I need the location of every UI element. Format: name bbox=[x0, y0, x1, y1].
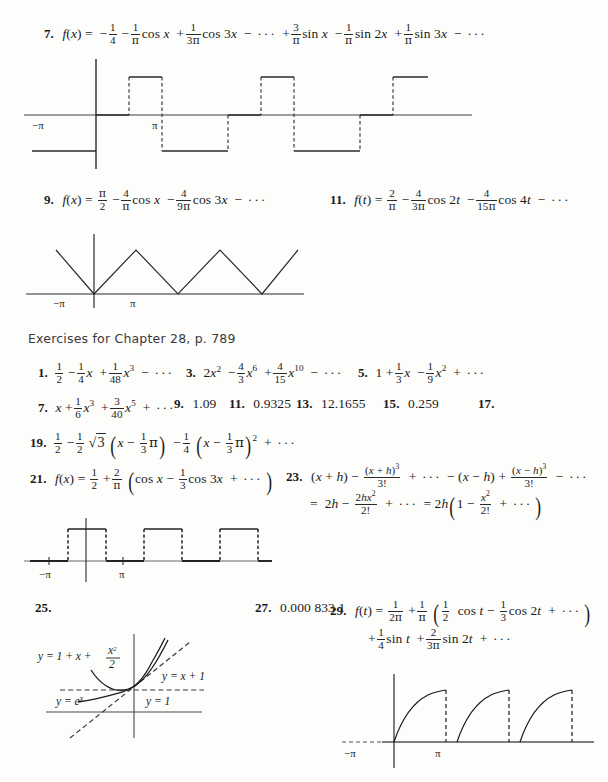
answer-number-27: 27. bbox=[255, 600, 272, 615]
answer-23-identity-line2: = 2h − 2hx22! + ··· = 2h(1 − x22! + ···) bbox=[310, 492, 543, 517]
svg-text:x2: x2 bbox=[107, 644, 117, 656]
answer-number-21: 21. bbox=[30, 471, 47, 486]
answer-15-value-text: 0.259 bbox=[403, 396, 439, 411]
answer-number-11b: 11. bbox=[229, 396, 245, 411]
answer-number-9: 9. bbox=[44, 192, 54, 207]
axis-label-pi: π bbox=[119, 568, 125, 580]
answer-9b-value: 9. 1.09 bbox=[174, 397, 216, 411]
curve-label-constant: y = 1 bbox=[145, 695, 170, 708]
answer-25-figure-ref: 25. bbox=[35, 601, 52, 615]
fig-29-sawtooth: −π π bbox=[322, 668, 606, 778]
answer-11b-value-text: 0.9325 bbox=[248, 396, 291, 411]
answer-15-value: 15. 0.259 bbox=[383, 397, 439, 411]
answer-17-value: 17. bbox=[478, 397, 500, 411]
fig-25-exponential: y = 1 + x + x2 2 y = x + 1 y = ex y = 1 bbox=[34, 620, 274, 745]
answer-11-fourier: 11. f(t) = 2π −43πcos 2t −415πcos 4t − ·… bbox=[330, 188, 573, 212]
answer-number-3: 3. bbox=[186, 365, 196, 380]
answer-number-23: 23. bbox=[286, 469, 303, 484]
answer-29-fourier-line2: +14sin t +23πsin 2t + ··· bbox=[368, 627, 514, 651]
answer-3-series: 3. 2x2 −43x6 +415x10 − ··· bbox=[186, 361, 345, 385]
axis-label-pi: π bbox=[130, 297, 136, 309]
axis-label-neg-pi: −π bbox=[32, 119, 44, 131]
curve-label-quadratic: y = 1 + x + bbox=[37, 650, 92, 663]
answer-11b-value: 11. 0.9325 bbox=[229, 397, 291, 411]
answers-page: 7. f(x) = −14 −1πcos x +13πcos 3x − ··· … bbox=[0, 0, 608, 782]
answer-number-25: 25. bbox=[35, 600, 52, 615]
answer-17-value-text bbox=[495, 396, 500, 411]
answer-number-11: 11. bbox=[330, 192, 346, 207]
section-header: Exercises for Chapter 28, p. 789 bbox=[28, 331, 236, 346]
curve-label-exponential: y = ex bbox=[55, 694, 84, 708]
answer-5-series: 5. 1 +13x −19x2 + ··· bbox=[358, 361, 488, 385]
answer-number-9b: 9. bbox=[174, 396, 184, 411]
answer-1-series: 1. 12 −14x +148x3 − ··· bbox=[38, 361, 176, 385]
answer-number-1: 1. bbox=[38, 365, 48, 380]
answer-9b-value-text: 1.09 bbox=[187, 396, 216, 411]
answer-7b-series: 7. x +16x3 +340x5 + ··· bbox=[38, 396, 178, 420]
axis-label-neg-pi: −π bbox=[39, 568, 51, 580]
axis-label-pi: π bbox=[435, 747, 441, 759]
answer-number-17: 17. bbox=[478, 396, 495, 411]
svg-text:2: 2 bbox=[109, 658, 115, 670]
axis-label-pi: π bbox=[152, 119, 158, 131]
fig-7-square-wave: −π π bbox=[24, 57, 494, 173]
answer-number-5: 5. bbox=[358, 365, 368, 380]
answer-23-identity-line1: 23. (x + h) − (x + h)33! + ··· − (x − h)… bbox=[286, 465, 590, 489]
curve-label-quadratic-fraction: x2 2 bbox=[106, 644, 120, 670]
fig-21-square-pulse: −π π bbox=[24, 516, 306, 588]
answer-7-fourier: 7. f(x) = −14 −1πcos x +13πcos 3x − ··· … bbox=[44, 22, 489, 46]
axis-label-neg-pi: −π bbox=[344, 747, 356, 759]
answer-19-taylor: 19. 12 −12 √3 (x − 13π) −14 (x − 13π)2 +… bbox=[30, 431, 299, 456]
answer-29-fourier-line1: 29. f(t) = 12π +1π (12 cos t − 13cos 2t … bbox=[330, 599, 591, 624]
answer-number-15: 15. bbox=[383, 396, 400, 411]
answer-number-13: 13. bbox=[296, 396, 313, 411]
answer-number-7: 7. bbox=[44, 26, 54, 41]
answer-number-7b: 7. bbox=[38, 400, 48, 415]
answer-number-29: 29. bbox=[330, 603, 347, 618]
answer-13-value-text: 12.1655 bbox=[316, 396, 366, 411]
answer-number-19: 19. bbox=[30, 435, 47, 450]
answer-9-fourier: 9. f(x) = π2 −4πcos x −49πcos 3x − ··· bbox=[44, 188, 269, 212]
answer-13-value: 13. 12.1655 bbox=[296, 397, 366, 411]
axis-label-neg-pi: −π bbox=[53, 297, 65, 309]
fig-9-triangle-wave: −π π bbox=[26, 232, 316, 310]
answer-21-fourier: 21. f(x) = 12 +2π (cos x − 13cos 3x + ··… bbox=[30, 467, 273, 492]
curve-label-linear: y = x + 1 bbox=[161, 670, 205, 683]
